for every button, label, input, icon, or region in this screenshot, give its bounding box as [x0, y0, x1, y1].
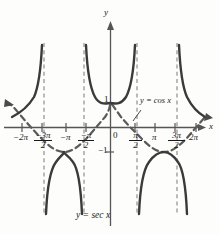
- x-tick-denominator: 2: [129, 140, 142, 150]
- x-tick-denominator: 2: [34, 140, 52, 150]
- origin-label: 0: [113, 131, 118, 140]
- x-tick-label-neg-pi: −π: [60, 133, 71, 142]
- x-tick-numerator: −π: [78, 131, 94, 140]
- sec-cos-graph-figure: y x 0 1 −1 −2π −3π 2 −π −π 2 π 2 π 3π 2 …: [0, 0, 220, 234]
- x-tick-label-neg-pi-over-2: −π 2: [78, 131, 94, 150]
- x-tick-label-3pi-over-2: 3π 2: [168, 131, 185, 150]
- x-tick-numerator: 3π: [168, 131, 185, 140]
- y-axis: [107, 21, 114, 226]
- cos-curve-label: y = cos x: [140, 96, 171, 105]
- axis-label-y: y: [104, 8, 108, 17]
- sec-curve-label: y = sec x: [76, 211, 110, 221]
- x-tick-label-neg-3pi-over-2: −3π 2: [34, 131, 52, 150]
- y-tick-label-one: 1: [104, 95, 109, 104]
- y-tick-label-neg-one: −1: [98, 146, 108, 155]
- axis-label-x: x: [209, 122, 213, 131]
- sec-branch-right-down: [139, 152, 187, 214]
- x-tick-label-neg-2pi: −2π: [13, 133, 28, 142]
- x-tick-label-2pi: 2π: [189, 133, 198, 142]
- sec-branch-outer-left: [12, 45, 42, 117]
- x-tick-denominator: 2: [168, 140, 185, 150]
- sec-branch-left-down: [46, 152, 82, 214]
- x-tick-numerator: −3π: [34, 131, 52, 140]
- x-tick-label-pi: π: [152, 133, 157, 142]
- graph-canvas: [0, 0, 220, 234]
- x-tick-label-pi-over-2: π 2: [129, 131, 142, 150]
- x-tick-numerator: π: [129, 131, 142, 140]
- sec-branch-outer-right: [179, 45, 205, 117]
- x-tick-denominator: 2: [78, 140, 94, 150]
